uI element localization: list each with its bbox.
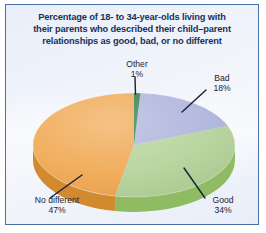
pie-label-good: Good 34% [202, 195, 244, 215]
pie-label-no-different-name: No different [35, 195, 79, 205]
pie-label-good-name: Good [212, 195, 233, 205]
pie-label-bad-name: Bad [214, 73, 229, 83]
pie-label-bad-value: 18% [202, 83, 242, 93]
pie-label-no-different-value: 47% [18, 205, 96, 215]
pie-label-good-value: 34% [202, 205, 244, 215]
pie-gloss [33, 93, 235, 197]
chart-panel: Percentage of 18- to 34-year-olds living… [5, 4, 259, 225]
pie-label-other-value: 1% [114, 69, 160, 79]
pie-chart-figure: Percentage of 18- to 34-year-olds living… [0, 0, 266, 233]
pie-label-bad: Bad 18% [202, 73, 242, 93]
pie-label-other-name: Other [126, 59, 148, 69]
leader-line-other [135, 77, 136, 94]
pie-chart-graphic [6, 5, 259, 225]
pie-label-no-different: No different 47% [18, 195, 96, 215]
pie-label-other: Other 1% [114, 59, 160, 79]
